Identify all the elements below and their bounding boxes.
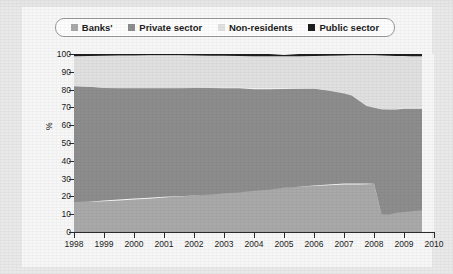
y-axis-tick-mark [69, 179, 74, 180]
y-axis-tick-mark [69, 90, 74, 91]
x-axis-tick-mark [344, 233, 345, 238]
x-axis-tick-label: 2000 [125, 239, 144, 249]
clipped-header-strip: · · · · · · [0, 0, 453, 7]
stacked-area-plot[interactable] [74, 54, 434, 232]
clipped-header-text: · · · · · · [0, 0, 453, 4]
y-axis-tick-mark [69, 125, 74, 126]
x-axis-tick-mark [74, 233, 75, 238]
y-axis-tick-mark [69, 72, 74, 73]
x-axis-tick-mark [404, 233, 405, 238]
x-axis-tick-mark [374, 233, 375, 238]
x-axis-tick-label: 2007 [335, 239, 354, 249]
figure-panel: Banks' Private sector Non-residents Publ… [22, 7, 432, 267]
x-axis-tick-mark [194, 233, 195, 238]
y-axis-tick-mark [69, 107, 74, 108]
x-axis-tick-label: 1998 [65, 239, 84, 249]
x-axis-tick-mark [254, 233, 255, 238]
x-axis-tick-label: 2001 [155, 239, 174, 249]
square-swatch-icon [128, 24, 135, 31]
stacked-area-svg [74, 54, 434, 232]
y-axis-tick-mark [69, 196, 74, 197]
y-axis-tick-mark [69, 161, 74, 162]
x-axis-tick-mark [104, 233, 105, 238]
square-swatch-icon [71, 24, 78, 31]
x-axis-tick-mark [284, 233, 285, 238]
x-axis-tick-label: 2010 [425, 239, 444, 249]
y-axis-tick-mark [69, 54, 74, 55]
no-data-region [422, 54, 434, 232]
y-axis-tick-mark [69, 214, 74, 215]
x-axis-tick-label: 2005 [275, 239, 294, 249]
x-axis-tick-label: 2002 [185, 239, 204, 249]
x-axis-tick-mark [314, 233, 315, 238]
square-swatch-icon [308, 24, 315, 31]
x-axis-tick-mark [134, 233, 135, 238]
x-axis-tick-mark [224, 233, 225, 238]
x-axis-tick-mark [164, 233, 165, 238]
square-swatch-icon [218, 24, 225, 31]
x-axis-tick-label: 2003 [215, 239, 234, 249]
chart-axes-area [74, 54, 434, 232]
x-axis-tick-label: 2004 [245, 239, 264, 249]
area-band-public-sector [74, 54, 422, 56]
chart-plot-wrapper: % 1009080706050403020100 199819992000200… [52, 32, 434, 254]
x-axis-tick-label: 2006 [305, 239, 324, 249]
x-axis-tick-mark [434, 233, 435, 238]
x-axis-tick-label: 1999 [95, 239, 114, 249]
x-axis-tick-label: 2009 [395, 239, 414, 249]
x-axis-tick-label: 2008 [365, 239, 384, 249]
y-axis-tick-mark [69, 143, 74, 144]
